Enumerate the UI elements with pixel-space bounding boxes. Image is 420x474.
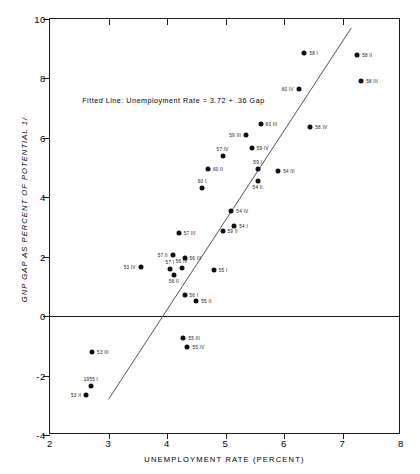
data-point-label: 60 II — [213, 167, 223, 172]
data-point — [200, 186, 205, 191]
x-axis-tick-label: 3 — [106, 438, 112, 449]
data-point-label: 57 III — [184, 230, 196, 235]
data-point — [249, 146, 254, 151]
data-point — [232, 223, 237, 228]
data-point — [308, 125, 313, 130]
data-point — [181, 336, 186, 341]
data-point — [205, 167, 210, 172]
data-point — [170, 253, 175, 258]
data-point-label: 56 I — [190, 293, 199, 298]
data-point-label: 56 IV — [176, 259, 188, 264]
data-point — [179, 266, 184, 271]
data-point-label: 1955 I — [84, 377, 98, 382]
data-point-label: 60 I — [198, 179, 207, 184]
data-point — [255, 178, 260, 183]
data-point-label: 54 IV — [236, 208, 248, 213]
data-point-label: 59 IV — [257, 146, 269, 151]
x-axis-tick-top — [343, 19, 344, 25]
data-point-label: 53 IV — [124, 265, 136, 270]
y-axis-tick-label: 6 — [40, 132, 46, 143]
data-point-label: 58 III — [366, 79, 378, 84]
data-point — [276, 168, 281, 173]
data-point-label: 58 IV — [315, 125, 327, 130]
x-axis-tick-label: 5 — [223, 438, 229, 449]
x-axis-tick-label: 7 — [340, 438, 346, 449]
data-point — [172, 272, 177, 277]
data-point-label: 56 III — [190, 256, 202, 261]
data-point — [220, 153, 225, 158]
fitted-line — [50, 19, 401, 435]
data-point-label: 59 II — [228, 229, 238, 234]
data-point — [84, 392, 89, 397]
data-point — [90, 349, 95, 354]
data-point-label: 53 II — [71, 392, 81, 397]
data-point-label: 55 IV — [192, 345, 204, 350]
data-point — [88, 383, 93, 388]
data-point — [296, 86, 301, 91]
data-point — [355, 52, 360, 57]
data-point — [258, 122, 263, 127]
data-point-label: 55 III — [188, 336, 200, 341]
data-point — [167, 266, 172, 271]
data-point — [255, 167, 260, 172]
x-axis-tick-top — [226, 19, 227, 25]
data-point — [182, 293, 187, 298]
data-point — [211, 268, 216, 273]
data-point-label: 55 II — [201, 299, 211, 304]
data-point-label: 60 III — [266, 122, 278, 127]
data-point-label: 58 I — [309, 51, 318, 56]
data-point-label: 58 II — [362, 52, 372, 57]
x-axis-tick-top — [284, 19, 285, 25]
data-point — [359, 79, 364, 84]
fit-annotation: Fitted Line: Unemployment Rate = 3.72 + … — [82, 96, 265, 105]
data-point — [243, 132, 248, 137]
x-axis-tick-top — [109, 19, 110, 25]
data-point-label: 57 I — [166, 260, 175, 265]
y-axis-tick-label: -4 — [36, 430, 46, 441]
x-axis-tick-label: 6 — [281, 438, 287, 449]
x-axis-tick-label: 2 — [47, 438, 53, 449]
x-axis-tick-top — [167, 19, 168, 25]
y-axis-title: GNP GAP AS PERCENT OF POTENTIAL 1/ — [20, 100, 29, 320]
x-axis-tick-label: 8 — [398, 438, 404, 449]
data-point-label: 54 I — [239, 223, 248, 228]
y-axis-tick-label: 4 — [40, 192, 46, 203]
data-point-label: 57 II — [158, 253, 168, 258]
x-axis-title: UNEMPLOYMENT RATE (PERCENT) — [49, 455, 400, 464]
data-point-label: 54 III — [283, 168, 295, 173]
data-point-label: 54 II — [253, 185, 263, 190]
chart-figure: Fitted Line: Unemployment Rate = 3.72 + … — [0, 0, 420, 474]
y-axis-tick-label: 10 — [34, 14, 46, 25]
data-point — [194, 299, 199, 304]
data-point-label: 59 I — [253, 160, 262, 165]
y-axis-tick-label: 0 — [40, 311, 46, 322]
data-point-label: 56 II — [169, 279, 179, 284]
data-point — [176, 230, 181, 235]
data-point — [302, 51, 307, 56]
data-point — [185, 345, 190, 350]
y-axis-tick-label: 8 — [40, 73, 46, 84]
plot-area: Fitted Line: Unemployment Rate = 3.72 + … — [49, 18, 400, 434]
data-point — [220, 229, 225, 234]
data-point-label: 53 III — [97, 349, 109, 354]
y-axis-tick-label: -2 — [36, 370, 46, 381]
data-point-label: 59 III — [229, 132, 241, 137]
data-point — [229, 208, 234, 213]
x-axis-tick-label: 4 — [164, 438, 170, 449]
data-point — [138, 265, 143, 270]
data-point-label: 55 I — [219, 268, 228, 273]
y-axis-tick-label: 2 — [40, 251, 46, 262]
data-point-label: 60 IV — [282, 86, 294, 91]
data-point-label: 57 IV — [217, 147, 229, 152]
